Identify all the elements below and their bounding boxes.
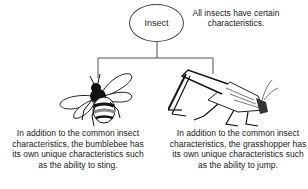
root-note: All insects have certain characteristics… (186, 8, 286, 28)
insect-root-node: Insect (129, 4, 184, 42)
bumblebee-caption: In addition to the common insect charact… (8, 128, 148, 170)
root-label: Insect (144, 18, 168, 28)
grasshopper-caption: In addition to the common insect charact… (168, 128, 308, 170)
grasshopper-icon (168, 66, 280, 128)
insect-hierarchy-diagram: Insect All insects have certain characte… (0, 0, 308, 189)
bumblebee-icon (58, 66, 148, 128)
